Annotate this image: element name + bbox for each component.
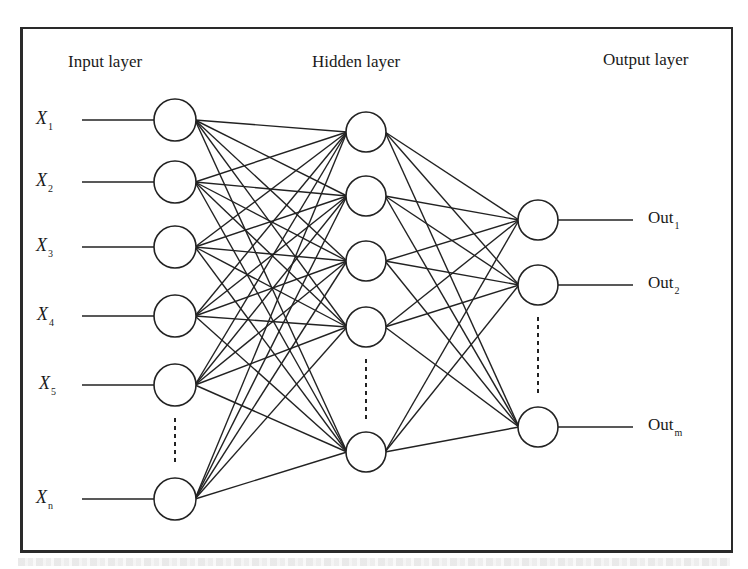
connection-edge: [195, 120, 347, 132]
input-node: [154, 364, 196, 406]
connection-edge: [385, 285, 519, 327]
connection-edge: [195, 261, 347, 499]
input-node: [154, 226, 196, 268]
connection-edge: [195, 452, 347, 499]
hidden-node: [346, 176, 386, 216]
output-node: [518, 200, 558, 240]
input-node: [154, 478, 196, 520]
connection-edge: [385, 261, 519, 427]
connection-edge: [195, 261, 347, 385]
connection-edge: [385, 285, 519, 452]
caption-strip: [18, 558, 730, 566]
output-node: [518, 265, 558, 305]
input-node: [154, 99, 196, 141]
connection-edge: [385, 327, 519, 427]
connection-edge: [385, 196, 519, 220]
connection-edge: [385, 427, 519, 452]
hidden-node: [346, 307, 386, 347]
connection-edge: [195, 385, 347, 452]
connection-edge: [195, 132, 347, 182]
hidden-node: [346, 432, 386, 472]
connection-edge: [195, 247, 347, 452]
input-node: [154, 161, 196, 203]
input-node: [154, 295, 196, 337]
network-graph: [0, 0, 748, 569]
connection-edge: [195, 132, 347, 247]
output-node: [518, 407, 558, 447]
hidden-node: [346, 112, 386, 152]
connection-edge: [195, 327, 347, 499]
hidden-node: [346, 241, 386, 281]
